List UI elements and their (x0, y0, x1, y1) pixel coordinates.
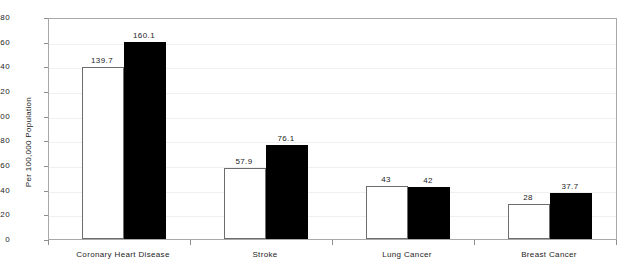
bar-value-label: 76.1 (265, 134, 307, 143)
y-tick-label: 100 (0, 113, 10, 121)
x-tick-mark (474, 240, 475, 245)
bar (508, 204, 550, 239)
y-tick-label: 140 (0, 63, 10, 71)
x-category-label: Breast Cancer (479, 250, 619, 260)
y-tick-label: 160 (0, 39, 10, 47)
y-tick-label: 20 (0, 211, 10, 219)
bar-value-label: 160.1 (123, 31, 165, 40)
x-tick-mark (48, 240, 49, 245)
y-tick-label: 0 (0, 236, 10, 244)
bar (550, 193, 592, 239)
y-axis-title: Per 100,000 Population (22, 42, 36, 242)
bar-value-label: 28 (507, 193, 549, 202)
bar-value-label: 57.9 (223, 157, 265, 166)
x-tick-mark (190, 240, 191, 245)
y-tick-label: 180 (0, 14, 10, 22)
bar (266, 145, 308, 239)
x-tick-mark (332, 240, 333, 245)
x-tick-mark (616, 240, 617, 245)
bar (124, 42, 166, 239)
x-category-label: Coronary Heart Disease (53, 250, 193, 260)
bar-value-label: 37.7 (549, 182, 591, 191)
bar-value-label: 43 (365, 175, 407, 184)
y-tick-label: 40 (0, 187, 10, 195)
bar (408, 187, 450, 239)
y-tick-label: 60 (0, 162, 10, 170)
plot-area (48, 18, 617, 240)
bar-value-label: 139.7 (81, 56, 123, 65)
bar-value-label: 42 (407, 176, 449, 185)
y-tick-label: 80 (0, 137, 10, 145)
y-tick-label: 120 (0, 88, 10, 96)
bar (82, 67, 124, 239)
bar (224, 168, 266, 239)
x-category-label: Stroke (195, 250, 335, 260)
bar (366, 186, 408, 239)
bar-chart: Per 100,000 Population 18016014012010080… (0, 0, 632, 273)
x-category-label: Lung Cancer (337, 250, 477, 260)
